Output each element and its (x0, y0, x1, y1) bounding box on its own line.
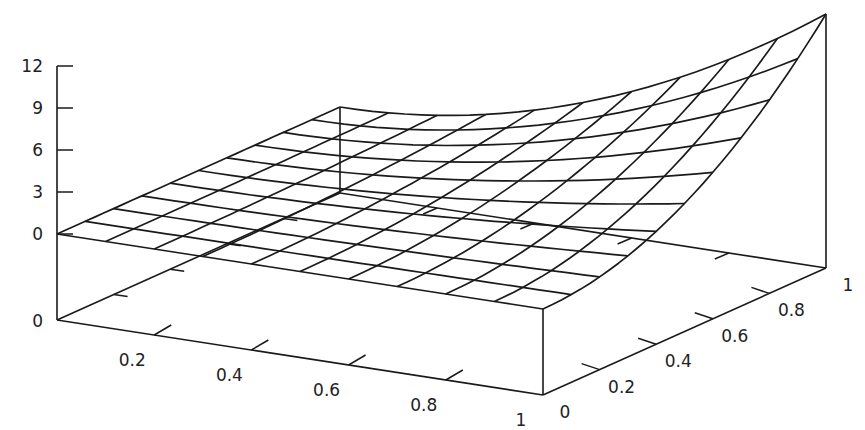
surface-line-const-y (114, 209, 600, 277)
y-tick (751, 287, 769, 293)
surface-line-const-y (312, 59, 798, 130)
x-tick-label: 1 (516, 410, 527, 430)
back-floor-tick (715, 253, 729, 259)
z-tick-label: 3 (32, 182, 43, 202)
x-tick-label: 0.6 (313, 380, 340, 400)
x-axis: 0.20.40.60.81 (119, 325, 527, 430)
surface-line-const-y (340, 14, 826, 115)
surface-line-const-y (283, 100, 769, 146)
surface-line-const-x (154, 115, 437, 249)
y-tick-label: 0.4 (665, 351, 692, 371)
surface-plot: 0369120 0.20.40.60.81 00.20.40.60.81 (0, 0, 865, 430)
x-tick (446, 370, 463, 380)
surface-line-const-x (543, 14, 826, 309)
back-floor-tick (618, 238, 632, 244)
bounding-box (57, 14, 826, 395)
y-tick-label: 0.8 (778, 300, 805, 320)
z-tick-label: 0 (32, 224, 43, 244)
x-tick (349, 355, 366, 365)
z-tick-label: 6 (32, 140, 43, 160)
y-tick (638, 338, 656, 344)
x-tick-label: 0.2 (119, 350, 146, 370)
surface-plot-canvas: 0369120 0.20.40.60.81 00.20.40.60.81 (0, 0, 865, 430)
y-tick-label: 1 (843, 275, 854, 295)
y-axis: 00.20.40.60.81 (560, 275, 854, 422)
surface-line-const-x (494, 38, 777, 301)
left-floor-tick (114, 295, 128, 297)
x-tick (251, 340, 268, 350)
surface-line-const-x (106, 113, 389, 242)
surface-line-const-x (57, 107, 340, 234)
y-tick (582, 364, 600, 370)
surface-mesh (57, 14, 826, 309)
surface-line-const-x (300, 103, 583, 272)
y-tick (695, 313, 713, 319)
surface-line-const-x (446, 60, 729, 295)
z-tick-label: 12 (21, 56, 43, 76)
z-axis: 0369120 (21, 56, 73, 331)
x-tick (154, 325, 171, 335)
x-tick-label: 0.4 (216, 365, 243, 385)
surface-line-const-y (199, 171, 685, 205)
y-tick-label: 0 (560, 402, 571, 422)
z-tick-label: 9 (32, 98, 43, 118)
back-floor-tick (423, 208, 437, 214)
y-tick-label: 0.6 (721, 326, 748, 346)
floor-zero-label: 0 (32, 311, 43, 331)
x-tick-label: 0.8 (410, 395, 437, 415)
y-tick-label: 0.2 (608, 377, 635, 397)
surface-line-const-x (349, 92, 632, 280)
left-floor-tick (170, 269, 184, 271)
